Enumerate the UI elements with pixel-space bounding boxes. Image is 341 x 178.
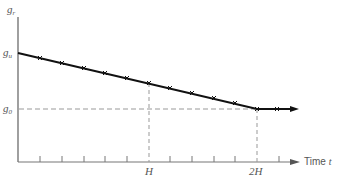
cross-markers	[38, 56, 279, 111]
curve-arrow-icon	[290, 106, 299, 112]
g-0-label: g0	[3, 103, 12, 116]
diagram-canvas	[0, 0, 341, 178]
tick-label-2h: 2H	[249, 166, 262, 177]
g-curve	[18, 53, 292, 109]
x-axis-arrow-icon	[290, 159, 300, 165]
x-axis-ticks	[40, 156, 279, 162]
tick-label-h: H	[145, 166, 153, 177]
x-axis-label: Time t	[304, 157, 331, 167]
g-u-label: gu	[3, 47, 12, 60]
y-axis-label: gr	[7, 4, 15, 17]
